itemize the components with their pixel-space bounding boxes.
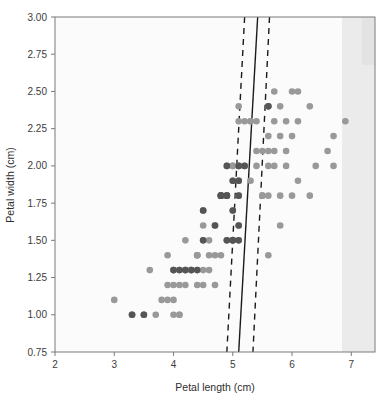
data-point-1-51: [265, 163, 272, 170]
data-point-1-57: [253, 163, 260, 170]
data-point-1-50: [283, 163, 290, 170]
data-point-1-29: [277, 222, 284, 229]
data-point-1-3: [265, 192, 272, 199]
data-point-0-48: [147, 267, 154, 274]
data-point-0-28: [218, 252, 225, 259]
data-point-1-20: [271, 118, 278, 125]
shade-band-corner: [362, 17, 375, 65]
y-tick-label-2: 1.25: [28, 272, 48, 283]
data-point-1-44: [271, 88, 278, 95]
data-point-0-7: [158, 297, 165, 304]
data-point-0-0: [111, 297, 118, 304]
data-point-2-21: [194, 267, 201, 274]
data-point-0-16: [170, 282, 177, 289]
data-point-0-44: [182, 282, 189, 289]
shade-band-outer: [342, 17, 375, 352]
data-point-2-12: [200, 237, 207, 244]
data-point-1-53: [277, 103, 284, 110]
data-point-0-25: [206, 252, 213, 259]
data-point-1-52: [247, 118, 254, 125]
data-point-1-8: [277, 192, 284, 199]
y-axis-label: Petal width (cm): [4, 147, 16, 222]
data-point-2-18: [141, 311, 148, 318]
data-point-2-25: [235, 163, 242, 170]
data-point-0-18: [194, 282, 201, 289]
data-point-0-15: [200, 267, 207, 274]
data-point-0-20: [164, 297, 171, 304]
x-tick-label-5: 7: [349, 359, 355, 370]
data-point-2-10: [224, 163, 231, 170]
data-point-1-43: [283, 118, 290, 125]
data-point-2-22: [235, 192, 242, 199]
data-point-1-34: [265, 252, 272, 259]
data-point-1-37: [259, 192, 266, 199]
data-point-1-4: [277, 133, 284, 140]
data-point-2-11: [265, 103, 272, 110]
y-tick-label-9: 3.00: [28, 12, 48, 23]
data-point-1-45: [241, 118, 248, 125]
data-point-0-33: [206, 237, 213, 244]
data-point-2-2: [229, 207, 236, 214]
data-point-0-49: [176, 311, 183, 318]
chart-canvas: 2345670.751.001.251.501.752.002.252.502.…: [0, 0, 391, 402]
scatter-plot-figure: 2345670.751.001.251.501.752.002.252.502.…: [0, 0, 391, 402]
data-point-1-25: [289, 192, 296, 199]
data-point-1-9: [295, 88, 302, 95]
data-point-1-54: [289, 133, 296, 140]
data-point-1-30: [295, 177, 302, 184]
x-tick-label-1: 3: [111, 359, 117, 370]
data-point-2-23: [224, 192, 231, 199]
plot-area: [55, 17, 375, 352]
data-point-0-6: [164, 252, 171, 259]
data-point-0-4: [152, 311, 159, 318]
x-tick-label-2: 4: [171, 359, 177, 370]
y-tick-label-0: 0.75: [28, 347, 48, 358]
data-point-2-4: [200, 207, 207, 214]
data-point-1-18: [342, 118, 349, 125]
y-tick-label-1: 1.00: [28, 309, 48, 320]
data-point-2-14: [176, 267, 183, 274]
data-point-1-28: [265, 148, 272, 155]
x-axis-label: Petal length (cm): [175, 381, 254, 393]
data-point-2-16: [188, 267, 195, 274]
data-point-2-3: [224, 237, 231, 244]
data-point-0-27: [212, 282, 219, 289]
data-point-0-30: [200, 222, 207, 229]
data-point-0-23: [182, 237, 189, 244]
data-point-0-17: [176, 282, 183, 289]
data-point-2-24: [229, 237, 236, 244]
y-tick-label-5: 2.00: [28, 160, 48, 171]
data-point-2-27: [241, 163, 248, 170]
data-point-0-8: [170, 311, 177, 318]
data-point-2-20: [212, 222, 219, 229]
data-point-1-48: [253, 118, 260, 125]
data-point-1-22: [330, 163, 337, 170]
data-point-1-2: [283, 148, 290, 155]
data-point-1-31: [312, 163, 319, 170]
y-tick-label-6: 2.25: [28, 123, 48, 134]
data-point-2-19: [229, 177, 236, 184]
data-point-0-40: [206, 267, 213, 274]
y-tick-label-4: 1.75: [28, 198, 48, 209]
data-point-1-39: [253, 148, 260, 155]
y-tick-label-7: 2.50: [28, 86, 48, 97]
data-point-2-5: [235, 237, 242, 244]
data-point-0-46: [194, 252, 201, 259]
x-tick-label-4: 6: [289, 359, 295, 370]
x-tick-label-0: 2: [52, 359, 58, 370]
data-point-1-35: [295, 118, 302, 125]
data-point-1-11: [247, 177, 254, 184]
data-point-0-19: [200, 282, 207, 289]
data-point-1-59: [229, 163, 236, 170]
data-point-1-24: [271, 148, 278, 155]
x-tick-label-3: 5: [230, 359, 236, 370]
y-tick-label-8: 2.75: [28, 49, 48, 60]
data-point-2-13: [170, 267, 177, 274]
data-point-0-21: [170, 297, 177, 304]
data-point-1-14: [235, 103, 242, 110]
data-point-2-17: [129, 311, 136, 318]
data-point-2-15: [182, 267, 189, 274]
data-point-1-32: [265, 133, 272, 140]
data-point-2-0: [235, 222, 242, 229]
data-point-1-41: [235, 118, 242, 125]
